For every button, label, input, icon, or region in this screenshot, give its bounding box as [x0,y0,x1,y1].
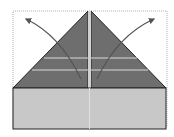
right-flap [91,11,166,88]
left-flap [13,11,88,88]
center-gap [88,11,91,89]
origami-diagram [0,0,174,137]
